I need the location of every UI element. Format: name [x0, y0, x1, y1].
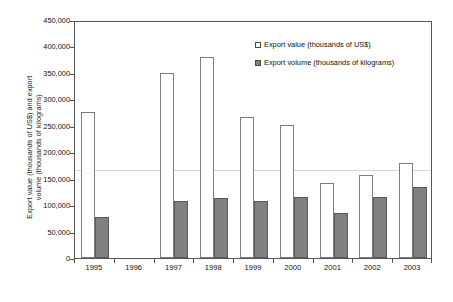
y-tick-label: 0: [18, 255, 70, 263]
bar-export-volume: [294, 197, 308, 258]
legend-entry-export-value: Export value (thousands of US$): [255, 40, 394, 49]
legend-label: Export value (thousands of US$): [264, 40, 371, 49]
x-tick-label: 1998: [193, 263, 233, 273]
x-tick-label: 1996: [114, 263, 154, 273]
x-tick-label: 2001: [313, 263, 353, 273]
x-tick-label: 2002: [352, 263, 392, 273]
y-tick-label: 450,000: [18, 17, 70, 25]
x-tick-label: 1999: [233, 263, 273, 273]
y-tick-label: 350,000: [18, 70, 70, 78]
bar-export-volume: [254, 201, 268, 258]
y-axis-tick-labels: 450,000 400,000 350,000 300,000 250,000 …: [18, 0, 70, 302]
bar-export-volume: [214, 198, 228, 258]
y-tick-label: 150,000: [18, 176, 70, 184]
legend-entry-export-volume: Export volume (thousands of kilograms): [255, 58, 394, 67]
x-tick-label: 1995: [74, 263, 114, 273]
bar-export-volume: [174, 201, 188, 258]
bar-export-value: [280, 125, 294, 258]
bar-export-volume: [334, 213, 348, 258]
bar-export-value: [160, 73, 174, 258]
bar-export-volume: [373, 197, 387, 258]
open-square-swatch-icon: [255, 42, 261, 48]
bar-export-value: [399, 163, 413, 258]
bar-export-value: [359, 175, 373, 258]
bar-export-value: [81, 112, 95, 258]
y-tick-label: 100,000: [18, 202, 70, 210]
x-tick-label: 1997: [154, 263, 194, 273]
y-tick-label: 300,000: [18, 96, 70, 104]
bar-export-volume: [413, 187, 427, 258]
filled-square-swatch-icon: [255, 60, 261, 66]
y-tick-label: 250,000: [18, 123, 70, 131]
y-tick-label: 200,000: [18, 149, 70, 157]
legend: Export value (thousands of US$) Export v…: [255, 40, 394, 76]
x-axis-tick-labels: 199519961997199819992000200120022003: [74, 263, 432, 279]
bar-chart: Export value (thousands of US$) and expo…: [0, 0, 453, 302]
bar-export-value: [200, 57, 214, 258]
bar-export-volume: [95, 217, 109, 258]
y-tick-label: 400,000: [18, 43, 70, 51]
bar-export-value: [320, 183, 334, 258]
bar-export-value: [240, 117, 254, 258]
x-tick-label: 2003: [392, 263, 432, 273]
x-tick-label: 2000: [273, 263, 313, 273]
y-tick-label: 50,000: [18, 229, 70, 237]
legend-label: Export volume (thousands of kilograms): [264, 58, 394, 67]
